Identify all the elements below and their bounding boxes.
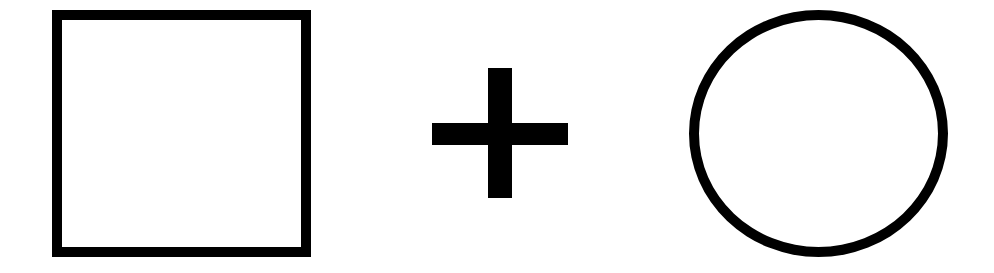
plus-icon — [432, 68, 568, 198]
circle-shape — [689, 10, 948, 257]
plus-vertical-bar — [488, 68, 512, 198]
square-shape — [52, 10, 311, 257]
